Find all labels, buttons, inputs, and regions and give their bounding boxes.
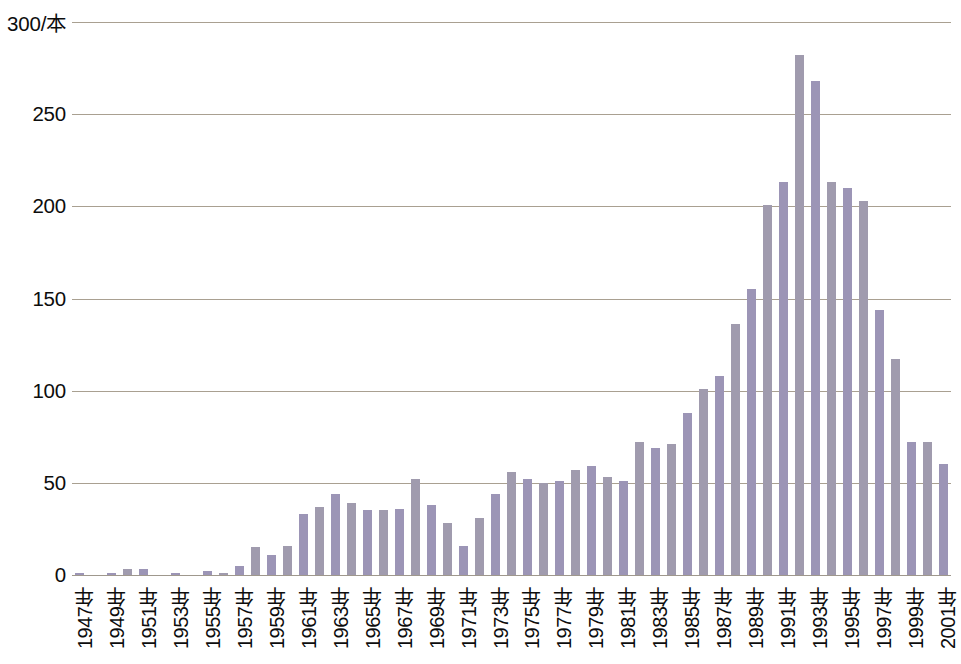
bar — [475, 518, 484, 575]
bar — [843, 188, 852, 575]
bar — [795, 55, 804, 575]
bar — [411, 479, 420, 575]
bar — [827, 182, 836, 575]
bar — [315, 507, 324, 575]
y-tick-label-250: 250 — [32, 102, 66, 126]
x-axis: 1947年1949年1951年1953年1955年1957年1959年1961年… — [72, 575, 951, 664]
bar — [395, 509, 404, 575]
bar — [283, 546, 292, 575]
bar — [619, 481, 628, 575]
bar — [539, 483, 548, 575]
bar — [731, 324, 740, 575]
bar — [763, 205, 772, 576]
bars — [72, 0, 951, 590]
x-tick-label: 1981年 — [613, 587, 642, 649]
bar — [779, 182, 788, 575]
bar — [683, 413, 692, 575]
bar — [715, 376, 724, 575]
bar — [939, 464, 948, 575]
bar — [251, 547, 260, 575]
y-tick-label-0: 0 — [55, 563, 66, 587]
x-tick-label: 1987年 — [709, 587, 738, 649]
bar — [587, 466, 596, 575]
y-tick-label-200: 200 — [32, 194, 66, 218]
bar — [747, 289, 756, 575]
bar — [603, 477, 612, 575]
bar — [363, 510, 372, 575]
x-tick-label: 1953年 — [166, 587, 195, 649]
bar — [507, 472, 516, 575]
bar — [491, 494, 500, 575]
bar — [635, 442, 644, 575]
x-tick-label: 1979年 — [581, 587, 610, 649]
x-tick-label: 1959年 — [262, 587, 291, 649]
x-tick-label: 1961年 — [294, 587, 323, 649]
plot-area — [72, 0, 951, 590]
x-tick-label: 2001年 — [933, 587, 961, 649]
bar — [443, 523, 452, 575]
bar — [347, 503, 356, 575]
bar — [923, 442, 932, 575]
bar — [379, 510, 388, 575]
x-tick-label: 1995年 — [837, 587, 866, 649]
x-tick-label: 1967年 — [390, 587, 419, 649]
bar — [555, 481, 564, 575]
bar — [235, 566, 244, 575]
x-tick-label: 1985年 — [677, 587, 706, 649]
x-tick-label: 1963年 — [326, 587, 355, 649]
bar — [907, 442, 916, 575]
bar — [651, 448, 660, 575]
bar — [875, 310, 884, 575]
y-tick-label-150: 150 — [32, 287, 66, 311]
x-tick-label: 1989年 — [741, 587, 770, 649]
y-tick-label-100: 100 — [32, 379, 66, 403]
y-tick-label-300: 300/本 — [7, 7, 66, 37]
x-tick-label: 1971年 — [454, 587, 483, 649]
x-tick-label: 1969年 — [422, 587, 451, 649]
bar — [459, 546, 468, 575]
x-tick-label: 1993年 — [805, 587, 834, 649]
x-tick-label: 1983年 — [645, 587, 674, 649]
bar — [811, 81, 820, 575]
bar — [571, 470, 580, 575]
bar — [427, 505, 436, 575]
x-tick-label: 1997年 — [869, 587, 898, 649]
x-tick-label: 1973年 — [486, 587, 515, 649]
bar — [331, 494, 340, 575]
bar — [299, 514, 308, 575]
x-tick-label: 1977年 — [549, 587, 578, 649]
bar — [667, 444, 676, 575]
x-tick-label: 1957年 — [230, 587, 259, 649]
x-tick-label: 1975年 — [517, 587, 546, 649]
x-tick-label: 1955年 — [198, 587, 227, 649]
x-tick-label: 1965年 — [358, 587, 387, 649]
bar — [891, 359, 900, 575]
x-tick-label: 1951年 — [134, 587, 163, 649]
bar — [267, 555, 276, 575]
bar — [699, 389, 708, 575]
x-tick-label: 1947年 — [70, 587, 99, 649]
bar — [859, 201, 868, 575]
x-tick-label: 1991年 — [773, 587, 802, 649]
x-tick-label: 1949年 — [102, 587, 131, 649]
y-axis: 050100150200250300/本 — [0, 0, 72, 590]
x-tick-label: 1999年 — [901, 587, 930, 649]
y-tick-label-50: 50 — [44, 471, 66, 495]
bar — [523, 479, 532, 575]
